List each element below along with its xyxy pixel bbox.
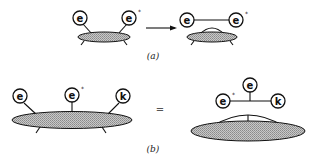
svg-text:e: e [247, 80, 254, 91]
diagram-canvas: e e * e e * (a) [0, 0, 316, 163]
foot-right [230, 41, 233, 45]
panel-b-right: e * e k [191, 78, 305, 141]
svg-text:e: e [126, 13, 133, 24]
svg-text:e: e [17, 91, 24, 102]
svg-text:e: e [184, 15, 191, 26]
foot-right [124, 41, 127, 45]
caption-b: (b) [147, 144, 160, 154]
node-e-star: e * [216, 91, 235, 108]
svg-text:e: e [69, 90, 76, 101]
node-e-star: e * [122, 8, 141, 25]
panel-a-right: e e * [180, 10, 248, 45]
node-k: k [271, 94, 285, 108]
foot-left [81, 41, 84, 45]
node-k: k [116, 89, 130, 103]
panel-b-left: e e * k [12, 85, 132, 133]
svg-text:*: * [245, 10, 248, 17]
svg-text:e: e [77, 13, 84, 24]
svg-text:*: * [138, 8, 141, 15]
svg-text:e: e [233, 15, 240, 26]
svg-text:k: k [120, 91, 127, 102]
svg-text:*: * [81, 85, 84, 92]
node-e-star: e * [229, 10, 248, 27]
foot-left [191, 41, 194, 45]
node-e: e [73, 11, 87, 25]
foot-right [102, 127, 106, 133]
svg-text:e: e [220, 96, 227, 107]
panel-a-left: e e * [73, 8, 141, 45]
blob-ellipse [191, 121, 305, 141]
blob-ellipse [12, 112, 132, 129]
leg-k [108, 103, 119, 114]
svg-text:*: * [232, 91, 235, 98]
equals-sign: = [156, 104, 164, 115]
node-e: e [243, 78, 257, 92]
node-e: e [180, 13, 194, 27]
node-e-star: e * [65, 85, 84, 102]
blob-ellipse [187, 32, 237, 42]
svg-text:k: k [275, 96, 282, 107]
caption-a: (a) [147, 51, 160, 61]
foot-left [36, 127, 40, 133]
blob-ellipse [78, 32, 130, 42]
node-e: e [13, 89, 27, 103]
arrow-icon [146, 26, 177, 31]
